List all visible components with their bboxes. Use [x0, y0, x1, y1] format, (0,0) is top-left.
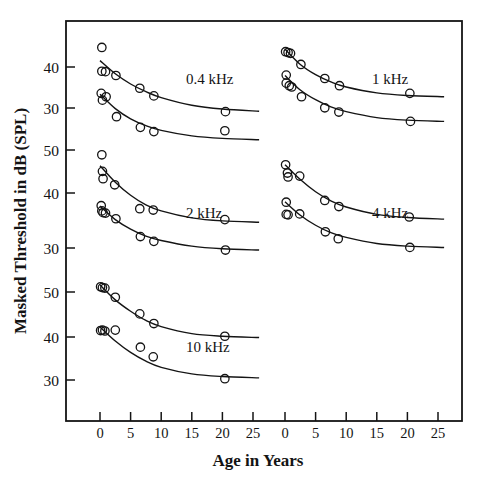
0.4kHz-panel: 0.4 kHz [97, 43, 259, 139]
fitted-curve [285, 165, 444, 219]
data-point [136, 123, 144, 131]
y-axis-tick-label: 40 [44, 59, 60, 76]
fitted-curve [100, 206, 259, 250]
y-axis-tick-label: 30 [44, 372, 60, 389]
data-point [98, 43, 106, 51]
figure-root: 4030504030504030051015202505101520250.4 … [0, 0, 488, 487]
data-point [136, 343, 144, 351]
x-axis-tick-label: 5 [127, 425, 134, 441]
data-point [221, 127, 229, 135]
fitted-curve [285, 202, 444, 248]
x-axis-tick-label: 5 [312, 425, 319, 441]
data-point [297, 93, 305, 101]
fitted-curve [100, 327, 259, 378]
data-point [406, 243, 414, 251]
x-axis-tick-label: 10 [339, 425, 354, 441]
data-point [98, 151, 106, 159]
panel-frequency-label: 0.4 kHz [186, 71, 234, 87]
y-axis-tick-label: 30 [44, 240, 60, 257]
panel-frequency-label: 1 kHz [372, 71, 409, 87]
fitted-curve [285, 49, 444, 97]
data-point [111, 326, 119, 334]
data-point [335, 202, 343, 210]
x-axis-tick-label: 0 [281, 425, 288, 441]
panel-frequency-label: 10 kHz [186, 339, 230, 355]
x-axis-title: Age in Years [213, 451, 304, 470]
x-axis-tick-label: 20 [400, 425, 415, 441]
10kHz-panel: 10 kHz [96, 283, 259, 383]
2kHz-panel: 2 kHz [97, 151, 259, 255]
data-point [149, 206, 157, 214]
panel-frequency-label: 4 kHz [372, 205, 409, 221]
y-axis-tick-label: 50 [44, 284, 60, 301]
fitted-curve [100, 94, 259, 139]
data-point [221, 375, 229, 383]
x-axis-tick-label: 25 [246, 425, 261, 441]
masked-threshold-chart: 4030504030504030051015202505101520250.4 … [0, 0, 488, 487]
fitted-curve [100, 285, 259, 338]
x-axis-tick-label: 0 [96, 425, 103, 441]
fitted-curve [100, 166, 259, 223]
y-axis-tick-label: 50 [44, 142, 60, 159]
panel-frequency-label: 2 kHz [186, 205, 223, 221]
x-axis-tick-label: 15 [185, 425, 200, 441]
data-point [136, 205, 144, 213]
data-point [221, 246, 229, 254]
y-axis-tick-label: 40 [44, 185, 60, 202]
1kHz-panel: 1 kHz [281, 48, 444, 126]
fitted-curve [100, 61, 259, 112]
y-axis-tick-label: 30 [44, 100, 60, 117]
fitted-curve [285, 76, 444, 122]
data-point [112, 215, 120, 223]
y-axis-title: Masked Threshold in dB (SPL) [11, 108, 30, 334]
data-point [112, 113, 120, 121]
data-point [112, 71, 120, 79]
4kHz-panel: 4 kHz [281, 161, 444, 252]
x-axis-tick-label: 25 [431, 425, 446, 441]
y-axis-tick-label: 40 [44, 329, 60, 346]
data-point [149, 353, 157, 361]
data-point [282, 71, 290, 79]
x-axis-tick-label: 20 [215, 425, 230, 441]
data-point [406, 117, 414, 125]
x-axis-tick-label: 10 [154, 425, 169, 441]
x-axis-tick-label: 15 [370, 425, 385, 441]
